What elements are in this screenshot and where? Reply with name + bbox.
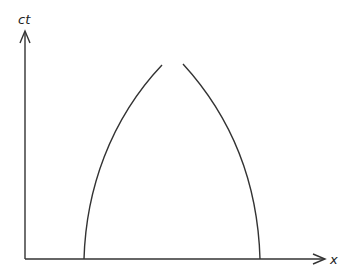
spacetime-diagram: ct x [0, 0, 350, 280]
x-axis-label: x [329, 252, 338, 267]
right-worldline [183, 64, 260, 259]
left-worldline [84, 65, 162, 259]
ct-axis-label: ct [18, 12, 31, 27]
